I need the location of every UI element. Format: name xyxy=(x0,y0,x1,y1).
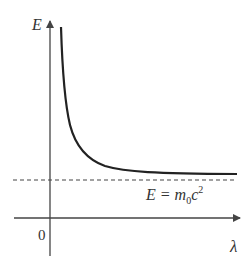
asymptote-label: E = m0c2 xyxy=(145,184,203,206)
y-axis-label: E xyxy=(31,16,42,33)
diagram-canvas: E 0 λ E = m0c2 xyxy=(0,0,245,258)
energy-curve xyxy=(61,27,237,174)
origin-label: 0 xyxy=(38,227,46,243)
x-axis-label: λ xyxy=(229,237,237,256)
